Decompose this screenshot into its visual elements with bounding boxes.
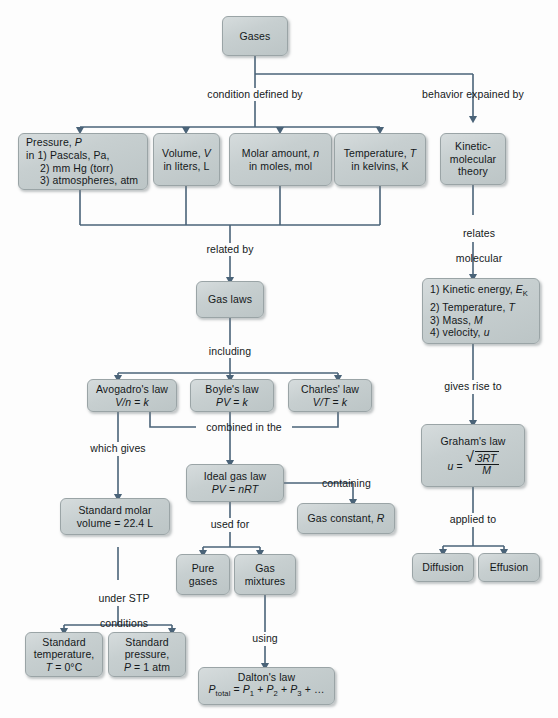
node-charles-line2: V/T = k (313, 396, 347, 408)
node-standard-molar-volume[interactable]: Standard molar volume = 22.4 L (60, 498, 170, 535)
concept-map-canvas: Gases Pressure, P in 1) Pascals, Pa, 2) … (0, 0, 558, 718)
node-mixtures-line1: Gas (255, 562, 275, 574)
node-volume-line2: in liters, L (163, 160, 209, 172)
node-kmt-line1: Kinetic- (455, 140, 491, 152)
node-pressure[interactable]: Pressure, P in 1) Pascals, Pa, 2) mm Hg … (18, 133, 148, 190)
node-boyle-line1: Boyle's law (205, 383, 258, 395)
node-gas-mixtures[interactable]: Gas mixtures (234, 554, 296, 595)
node-pure-line2: gases (189, 575, 218, 587)
edge-label-related-by: related by (190, 243, 270, 255)
edge-label-under-stp-conditions: under STP conditions (73, 580, 163, 642)
node-kmt-line2: molecular (450, 153, 496, 165)
node-kinetic-molecular-theory[interactable]: Kinetic- molecular theory (440, 133, 506, 185)
node-kmt-item-3: 3) Mass, M (430, 314, 483, 326)
node-avogadro-line2: V/n = k (115, 396, 149, 408)
edge-label-used-for: used for (195, 518, 265, 530)
node-avogadros-law[interactable]: Avogadro's law V/n = k (87, 379, 177, 412)
node-diffusion-label: Diffusion (417, 561, 469, 574)
node-std-temp-line3: T = 0°C (46, 661, 83, 673)
node-kmt-item-4: 4) velocity, u (430, 326, 490, 338)
edge-label-condition-defined-by: condition defined by (190, 88, 320, 100)
node-molar-amount[interactable]: Molar amount, n in moles, mol (229, 133, 332, 186)
node-volume[interactable]: Volume, V in liters, L (153, 133, 220, 186)
node-kmt-item-2: 2) Temperature, T (430, 301, 515, 313)
node-kmt-item-1: 1) Kinetic energy, EK (430, 283, 528, 295)
node-temperature-line1: Temperature, T (344, 147, 417, 159)
under-stp-line1: under STP (98, 592, 149, 604)
edge-label-relates-molecular: relates molecular (428, 215, 518, 277)
node-molar-line1: Molar amount, n (242, 147, 319, 159)
node-std-press-line3: P = 1 atm (124, 661, 170, 673)
node-effusion[interactable]: Effusion (478, 553, 540, 582)
node-gas-laws[interactable]: Gas laws (196, 281, 264, 318)
node-gases-label: Gases (227, 30, 283, 43)
node-gas-laws-label: Gas laws (201, 293, 259, 306)
node-avogadro-line1: Avogadro's law (96, 383, 168, 395)
node-std-temp-line2: temperature, (34, 648, 95, 660)
node-gas-constant[interactable]: Gas constant, R (297, 503, 395, 534)
node-pressure-line1: Pressure, P (26, 136, 82, 148)
edge-label-gives-rise-to: gives rise to (428, 380, 518, 392)
node-ideal-gas-law[interactable]: Ideal gas law PV = nRT (186, 464, 284, 502)
node-pressure-line2: in 1) Pascals, Pa, (26, 149, 110, 161)
edge-label-containing: containing (322, 477, 386, 489)
node-gases[interactable]: Gases (222, 16, 288, 56)
node-dalton-formula: Ptotal = P1 + P2 + P3 + … (209, 683, 325, 695)
node-temperature[interactable]: Temperature, T in kelvins, K (334, 133, 426, 186)
node-graham-formula: u = 3RTM (426, 451, 520, 476)
node-kmt-line3: theory (458, 165, 488, 177)
node-pure-line1: Pure (192, 562, 215, 574)
node-dalton-line1: Dalton's law (238, 671, 295, 683)
node-charles-law[interactable]: Charles' law V/T = k (288, 379, 372, 412)
edge-label-which-gives: which gives (75, 442, 161, 454)
node-charles-line1: Charles' law (301, 383, 359, 395)
node-pure-gases[interactable]: Pure gases (176, 554, 230, 595)
node-std-molar-line2: volume = 22.4 L (77, 517, 154, 529)
under-stp-line2: conditions (100, 617, 148, 629)
node-std-press-line2: pressure, (125, 648, 170, 660)
node-gas-constant-label: Gas constant, R (302, 512, 390, 525)
node-kmt-quantities[interactable]: 1) Kinetic energy, EK 2) Temperature, T … (422, 278, 540, 344)
node-boyles-law[interactable]: Boyle's law PV = k (190, 379, 274, 412)
edge-label-behavior-explained-by: behavior expained by (409, 88, 537, 100)
edge-label-applied-to: applied to (435, 513, 511, 525)
relates-line2: molecular (456, 252, 502, 264)
node-std-molar-line1: Standard molar (78, 504, 151, 516)
node-boyle-line2: PV = k (216, 396, 248, 408)
node-ideal-line2: PV = nRT (212, 483, 258, 495)
node-mixtures-line2: mixtures (245, 575, 285, 587)
node-graham-line1: Graham's law (426, 435, 520, 448)
edge-label-including: including (190, 345, 270, 357)
node-molar-line2: in moles, mol (249, 160, 312, 172)
node-diffusion[interactable]: Diffusion (412, 553, 474, 582)
node-pressure-line3: 2) mm Hg (torr) (26, 162, 113, 175)
edge-label-combined-in-the: combined in the (196, 421, 292, 433)
node-volume-line1: Volume, V (162, 147, 211, 159)
node-grahams-law[interactable]: Graham's law u = 3RTM (421, 424, 525, 487)
relates-line1: relates (463, 227, 495, 239)
node-pressure-line4: 3) atmospheres, atm (26, 174, 138, 187)
node-ideal-line1: Ideal gas law (204, 470, 267, 482)
node-daltons-law[interactable]: Dalton's law Ptotal = P1 + P2 + P3 + … (198, 667, 335, 705)
node-temperature-line2: in kelvins, K (351, 160, 408, 172)
node-effusion-label: Effusion (483, 561, 535, 574)
edge-label-using: using (235, 632, 295, 644)
